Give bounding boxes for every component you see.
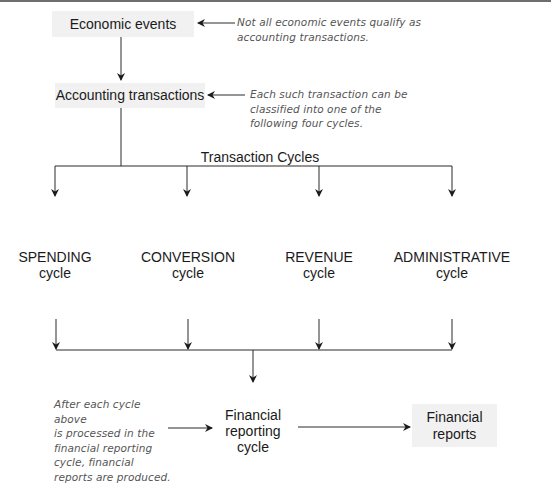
frc-line: reporting bbox=[213, 423, 293, 439]
note-line: accounting transactions. bbox=[237, 30, 437, 45]
accounting-transactions-label: Accounting transactions bbox=[56, 87, 205, 104]
cycle-sub: cycle bbox=[269, 265, 369, 281]
cycle-name: CONVERSION bbox=[128, 249, 248, 265]
financial-reporting-note: After each cycle above is processed in t… bbox=[54, 397, 174, 484]
administrative-cycle: ADMINISTRATIVE cycle bbox=[382, 249, 522, 281]
economic-events-label: Economic events bbox=[70, 16, 177, 33]
financial-reports-box: Financial reports bbox=[412, 404, 497, 447]
fr-line: Financial bbox=[426, 409, 482, 426]
economic-events-box: Economic events bbox=[52, 11, 194, 37]
cycle-sub: cycle bbox=[5, 265, 105, 281]
cycle-name: SPENDING bbox=[5, 249, 105, 265]
financial-reporting-cycle: Financial reporting cycle bbox=[213, 407, 293, 455]
cycle-sub: cycle bbox=[128, 265, 248, 281]
note-line: classified into one of the bbox=[250, 102, 450, 117]
note-line: After each cycle above bbox=[54, 397, 174, 426]
cycle-sub: cycle bbox=[382, 265, 522, 281]
frc-line: cycle bbox=[213, 439, 293, 455]
economic-events-note: Not all economic events qualify as accou… bbox=[237, 15, 437, 44]
note-line: Not all economic events qualify as bbox=[237, 15, 437, 30]
transaction-cycles-heading: Transaction Cycles bbox=[200, 149, 320, 165]
note-line: following four cycles. bbox=[250, 116, 450, 131]
accounting-transactions-note: Each such transaction can be classified … bbox=[250, 87, 450, 131]
note-line: financial reporting bbox=[54, 441, 174, 456]
fr-line: reports bbox=[433, 426, 477, 443]
conversion-cycle: CONVERSION cycle bbox=[128, 249, 248, 281]
note-line: cycle, financial bbox=[54, 455, 174, 470]
spending-cycle: SPENDING cycle bbox=[5, 249, 105, 281]
accounting-transactions-box: Accounting transactions bbox=[55, 83, 205, 108]
revenue-cycle: REVENUE cycle bbox=[269, 249, 369, 281]
cycle-name: ADMINISTRATIVE bbox=[382, 249, 522, 265]
note-line: is processed in the bbox=[54, 426, 174, 441]
frc-line: Financial bbox=[213, 407, 293, 423]
cycle-name: REVENUE bbox=[269, 249, 369, 265]
note-line: Each such transaction can be bbox=[250, 87, 450, 102]
note-line: reports are produced. bbox=[54, 470, 174, 485]
